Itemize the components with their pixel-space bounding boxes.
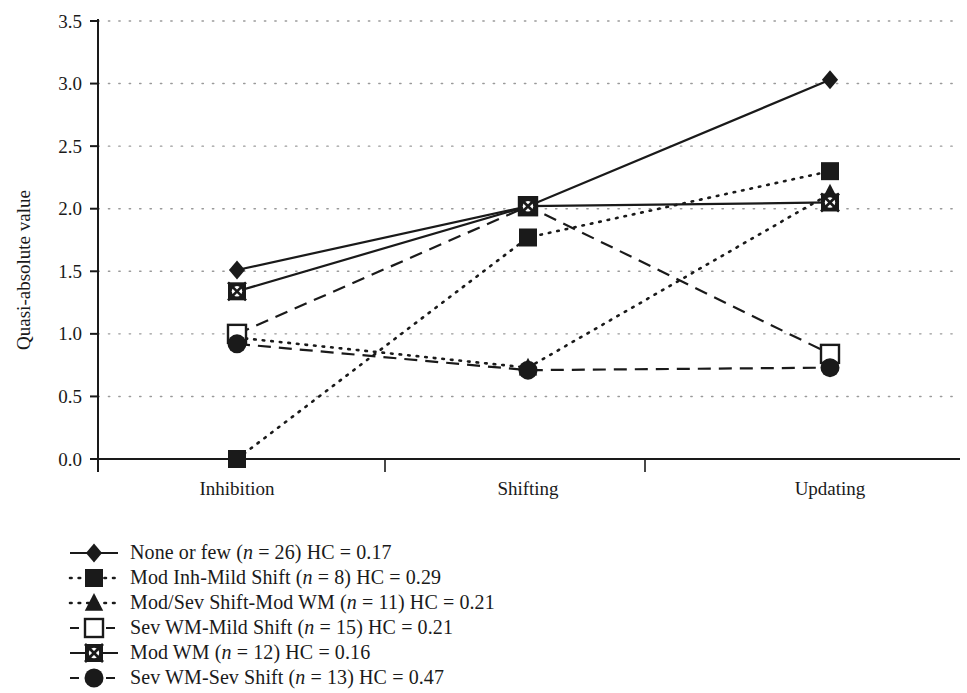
- data-point-marker: [821, 358, 840, 377]
- data-point-marker: [519, 361, 538, 380]
- data-point-marker: [228, 334, 247, 353]
- data-point-marker: [85, 668, 104, 687]
- series-lines: [237, 80, 830, 459]
- y-axis-title: Quasi-absolute value: [13, 190, 34, 350]
- legend-item[interactable]: Sev WM-Mild Shift (n = 15) HC = 0.21: [68, 615, 708, 640]
- series-line: [237, 206, 830, 354]
- y-axis-tick-label: 1.5: [58, 261, 82, 282]
- y-axis-tick-label: 3.0: [58, 73, 82, 94]
- x-axis-ticks: [385, 459, 645, 472]
- y-axis-tick-label: 2.0: [58, 198, 82, 219]
- legend-item[interactable]: Mod/Sev Shift-Mod WM (n = 11) HC = 0.21: [68, 590, 708, 615]
- legend-item[interactable]: Mod WM (n = 12) HC = 0.16: [68, 640, 708, 665]
- legend-marker-filled-diamond-icon: [68, 542, 120, 564]
- y-axis-tick-label: 0.0: [58, 449, 82, 470]
- x-axis-category-label: Updating: [795, 478, 866, 499]
- figure-container: 0.00.51.01.52.02.53.03.5 InhibitionShift…: [0, 0, 967, 693]
- y-axis-title-text: Quasi-absolute value: [13, 190, 34, 350]
- y-axis-tick-label: 1.0: [58, 323, 82, 344]
- data-point-marker: [85, 569, 103, 587]
- data-point-marker: [228, 282, 246, 300]
- legend-item[interactable]: Mod Inh-Mild Shift (n = 8) HC = 0.29: [68, 565, 708, 590]
- data-point-marker: [228, 450, 246, 468]
- x-axis-category-labels: InhibitionShiftingUpdating: [200, 478, 866, 499]
- legend-item[interactable]: Sev WM-Sev Shift (n = 13) HC = 0.47: [68, 665, 708, 690]
- y-axis-tick-labels: 0.00.51.01.52.02.53.03.5: [58, 11, 98, 470]
- legend-marker-filled-triangle-icon: [68, 592, 120, 614]
- series-line: [237, 194, 830, 368]
- line-chart: 0.00.51.01.52.02.53.03.5 InhibitionShift…: [0, 0, 967, 520]
- legend-item-label: Sev WM-Mild Shift (n = 15) HC = 0.21: [130, 616, 453, 639]
- data-point-marker: [229, 261, 245, 280]
- y-axis-tick-label: 0.5: [58, 386, 82, 407]
- data-point-marker: [86, 543, 102, 562]
- legend-marker-filled-circle-icon: [68, 667, 120, 689]
- data-point-marker: [519, 197, 537, 215]
- legend-item[interactable]: None or few (n = 26) HC = 0.17: [68, 540, 708, 565]
- legend-marker-open-square-icon: [68, 617, 120, 639]
- data-point-marker: [519, 228, 537, 246]
- data-point-marker: [85, 644, 103, 662]
- legend-item-label: Mod Inh-Mild Shift (n = 8) HC = 0.29: [130, 566, 441, 589]
- legend-item-label: None or few (n = 26) HC = 0.17: [130, 541, 392, 564]
- x-axis-category-label: Shifting: [497, 478, 559, 499]
- legend-item-label: Mod WM (n = 12) HC = 0.16: [130, 641, 370, 664]
- data-point-marker: [821, 193, 839, 211]
- data-point-marker: [85, 619, 103, 637]
- legend-item-label: Mod/Sev Shift-Mod WM (n = 11) HC = 0.21: [130, 591, 495, 614]
- legend-marker-circle-x-icon: [68, 642, 120, 664]
- y-axis-tick-label: 3.5: [58, 11, 82, 32]
- legend-item-label: Sev WM-Sev Shift (n = 13) HC = 0.47: [130, 666, 444, 689]
- x-axis-category-label: Inhibition: [200, 478, 275, 499]
- legend-marker-filled-square-icon: [68, 567, 120, 589]
- chart-legend: None or few (n = 26) HC = 0.17Mod Inh-Mi…: [68, 540, 708, 690]
- data-point-marker: [822, 70, 838, 89]
- y-axis-tick-label: 2.5: [58, 136, 82, 157]
- data-point-marker: [821, 162, 839, 180]
- series-markers: [228, 70, 840, 468]
